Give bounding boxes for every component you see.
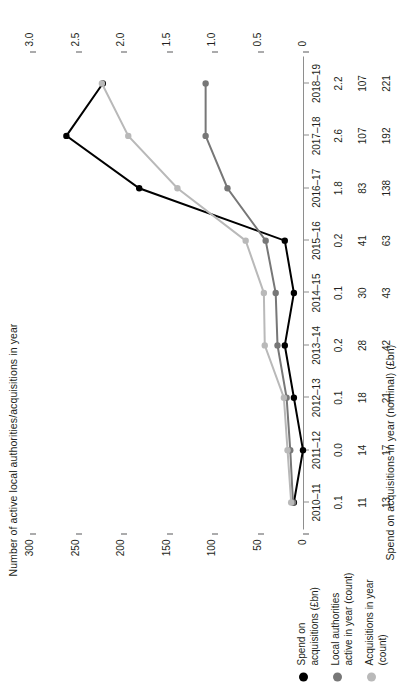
value-tick-label: 200 [115,539,126,585]
legend-label: (count) [377,531,390,665]
value-tick-label: 1.0 [206,0,217,46]
value-tick-label: 300 [24,539,35,585]
value-tick [30,51,36,52]
value-tick [76,51,82,52]
value-tick-label: 2.0 [115,0,126,46]
value-tick [212,51,218,52]
series-marker [291,394,297,400]
table-cell-spend: 2.2 [333,51,344,115]
series-marker [282,342,288,348]
series-lines [24,56,314,529]
legend-label: active in year (count) [343,531,356,665]
chart-figure: Spend on acquisitions in year (nominal) … [0,0,408,699]
series-marker [262,342,268,348]
legend-marker-icon [333,672,342,681]
value-tick-label: 2.5 [70,0,81,46]
value-tick [167,51,173,52]
legend-label: Spend on [296,531,309,665]
legend-label: Local authorities [330,531,343,665]
value-tick-label: 0.5 [252,0,263,46]
legend-marker-icon [299,672,308,681]
value-tick [303,51,309,52]
value-tick [121,51,127,52]
value-tick-label: 3.0 [24,0,35,46]
value-tick-label: 1.5 [161,0,172,46]
value-tick [76,533,82,534]
series-marker [202,132,208,138]
table-cell-acquisitions: 221 [381,51,392,115]
legend-marker-icon [367,672,376,681]
value-tick-label: 50 [252,539,263,585]
series-line [206,83,293,502]
value-tick [167,533,173,534]
chart-legend: Spend onacquisitions (£bn)Local authorit… [296,531,398,681]
series-line [66,83,303,502]
series-marker [282,237,288,243]
series-marker [261,289,267,295]
legend-label: Acquisitions in year [364,531,377,665]
right-axis-title: Number of active local authorities/acqui… [7,323,19,576]
legend-item[interactable]: Acquisitions in year(count) [364,531,389,681]
series-marker [291,289,297,295]
series-marker [224,185,230,191]
table-cell-authorities: 107 [357,51,368,115]
value-tick [258,533,264,534]
series-marker [300,446,306,452]
value-tick-label: 100 [206,539,217,585]
legend-item[interactable]: Spend onacquisitions (£bn) [296,531,321,681]
value-tick [212,533,218,534]
legend-label: acquisitions (£bn) [309,531,322,665]
value-tick [121,533,127,534]
plot-area: 00.51.01.52.02.53.0 050100150200250300 2… [24,56,383,529]
series-marker [202,80,208,86]
value-tick-label: 250 [70,539,81,585]
value-tick [30,533,36,534]
value-tick-label: 0 [297,0,308,46]
legend-item[interactable]: Local authoritiesactive in year (count) [330,531,355,681]
value-tick [258,51,264,52]
series-marker [273,289,279,295]
series-marker [274,342,280,348]
value-tick-label: 150 [161,539,172,585]
